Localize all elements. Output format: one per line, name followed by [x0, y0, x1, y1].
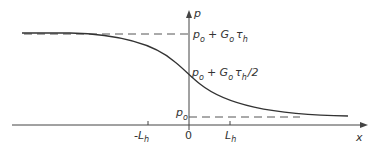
pressure-curve	[22, 33, 348, 116]
x-axis-label: x	[355, 131, 363, 144]
lower-level-label: po	[175, 106, 188, 122]
pressure-profile-diagram: p x 0 -Lh Lh po+ Goτh po+ Goτh/2 po	[0, 0, 376, 149]
upper-level-label: po+ Goτh	[192, 28, 248, 44]
y-axis-label: p	[193, 7, 201, 20]
x-axis-arrow-icon	[360, 122, 368, 128]
origin-label: 0	[185, 129, 192, 142]
tick-label-pos-lh: Lh	[225, 129, 236, 144]
y-axis-arrow-icon	[186, 10, 192, 18]
tick-label-neg-lh: -Lh	[134, 129, 149, 144]
middle-level-label: po+ Goτh/2	[191, 66, 258, 82]
